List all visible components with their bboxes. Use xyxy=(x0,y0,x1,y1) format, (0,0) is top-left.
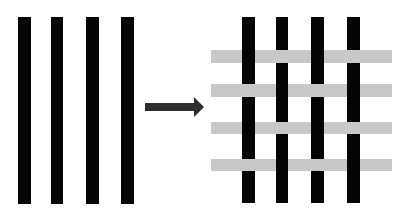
weft-strip xyxy=(211,50,392,63)
warp-over-crossing xyxy=(311,122,324,134)
woven-grid-panel xyxy=(211,17,392,203)
weave-diagram xyxy=(0,0,404,220)
warp-strip xyxy=(242,17,255,203)
warp-over-crossing xyxy=(242,122,255,134)
warp-over-crossing xyxy=(276,84,288,97)
vertical-strips-panel xyxy=(18,17,134,204)
warp-strip xyxy=(18,17,31,204)
warp-strip xyxy=(121,17,134,204)
warp-strip xyxy=(311,17,324,203)
warp-strip xyxy=(51,17,63,204)
weft-strip xyxy=(211,122,392,134)
warp-over-crossing xyxy=(276,159,288,171)
warp-over-crossing xyxy=(347,159,360,171)
warp-over-crossing xyxy=(242,50,255,63)
warp-strip xyxy=(276,17,288,203)
warp-over-crossing xyxy=(347,84,360,97)
warp-strip xyxy=(347,17,360,203)
weft-strip xyxy=(211,159,392,171)
warp-strip xyxy=(86,17,99,204)
arrow-right-icon xyxy=(145,97,204,117)
warp-over-crossing xyxy=(311,50,324,63)
weft-strip xyxy=(211,84,392,97)
transform-arrow-icon xyxy=(145,97,204,117)
